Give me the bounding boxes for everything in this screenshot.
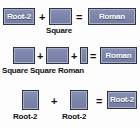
block-square-first bbox=[13, 47, 35, 64]
block-roman-result: Roman bbox=[100, 47, 137, 64]
plus-operator-second: + bbox=[71, 51, 77, 62]
equals-operator: = bbox=[76, 12, 82, 23]
equation-row-1: Root-2 + = Roman Square bbox=[0, 0, 140, 40]
plus-operator: + bbox=[51, 96, 57, 107]
block-roman-narrow bbox=[80, 47, 88, 64]
caption-square: Square bbox=[46, 27, 72, 35]
equation-row-3: + = Root-2 Root-2 Root-2 bbox=[0, 86, 140, 128]
equals-operator: = bbox=[90, 51, 96, 62]
block-label: Roman bbox=[105, 52, 131, 60]
block-square-second bbox=[46, 47, 69, 64]
proportion-blocks-diagram: Root-2 + = Roman Square + + = Roman Squa… bbox=[0, 0, 140, 128]
plus-operator: + bbox=[37, 51, 43, 62]
block-label: Roman bbox=[99, 13, 125, 21]
block-root-2-first bbox=[22, 90, 39, 110]
block-label: Root-2 bbox=[7, 13, 31, 21]
block-label: Root-2 bbox=[110, 96, 134, 104]
block-roman: Roman bbox=[88, 8, 136, 25]
block-root-2-second bbox=[70, 90, 88, 110]
block-root-2: Root-2 bbox=[3, 8, 35, 25]
equals-operator: = bbox=[96, 96, 102, 107]
block-square bbox=[49, 8, 72, 25]
caption-root-2-second: Root-2 bbox=[62, 113, 86, 121]
block-root-2-result: Root-2 bbox=[107, 91, 137, 109]
plus-operator: + bbox=[39, 12, 45, 23]
caption-row-2: Square Square Roman bbox=[2, 67, 84, 75]
caption-root-2-first: Root-2 bbox=[13, 113, 37, 121]
equation-row-2: + + = Roman Square Square Roman bbox=[0, 43, 140, 83]
